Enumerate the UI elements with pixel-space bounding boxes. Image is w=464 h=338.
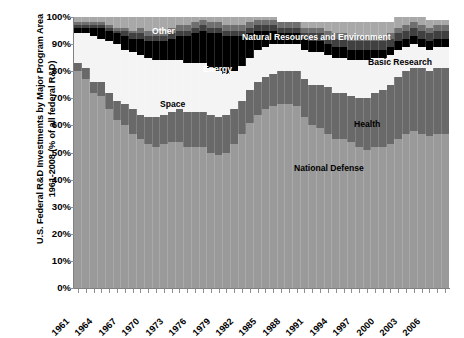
- x-tick-mark: [164, 289, 165, 293]
- x-tick-mark: [148, 289, 149, 293]
- column-separator: [300, 17, 301, 288]
- x-tick-mark: [437, 289, 438, 293]
- x-tick-mark: [109, 289, 110, 293]
- x-tick-mark: [297, 289, 298, 293]
- x-tick-mark: [250, 289, 251, 293]
- column-separator: [183, 17, 184, 288]
- column-separator: [167, 17, 168, 288]
- x-tick-mark: [203, 289, 204, 293]
- x-tick-mark: [328, 289, 329, 293]
- column-separator: [175, 17, 176, 288]
- column-separator: [206, 17, 207, 288]
- x-tick-mark: [117, 289, 118, 293]
- y-tick-mark: [69, 98, 74, 99]
- y-tick-mark: [69, 288, 74, 289]
- column-separator: [370, 17, 371, 288]
- column-separator: [284, 17, 285, 288]
- y-tick-mark: [69, 71, 74, 72]
- column-separator: [402, 17, 403, 288]
- y-tick-mark: [69, 180, 74, 181]
- column-separator: [105, 17, 106, 288]
- x-tick-mark: [414, 289, 415, 293]
- y-tick-label: 80%: [25, 66, 71, 76]
- column-separator: [409, 17, 410, 288]
- column-separator: [214, 17, 215, 288]
- x-tick-mark: [211, 289, 212, 293]
- x-tick-mark: [187, 289, 188, 293]
- y-tick-mark: [69, 153, 74, 154]
- column-separator: [128, 17, 129, 288]
- x-tick-mark: [445, 289, 446, 293]
- x-tick-mark: [179, 289, 180, 293]
- x-tick-label: 1988: [261, 316, 283, 338]
- column-separator: [144, 17, 145, 288]
- x-tick-label: 1979: [190, 316, 212, 338]
- y-tick-label: 60%: [25, 120, 71, 130]
- y-tick-label: 20%: [25, 229, 71, 239]
- column-separator: [347, 17, 348, 288]
- x-tick-mark: [265, 289, 266, 293]
- x-tick-mark: [133, 289, 134, 293]
- x-tick-label: 2006: [401, 316, 423, 338]
- x-tick-mark: [398, 289, 399, 293]
- x-tick-mark: [234, 289, 235, 293]
- x-tick-mark: [422, 289, 423, 293]
- x-tick-label: 1994: [307, 316, 329, 338]
- column-separator: [386, 17, 387, 288]
- column-separator: [89, 17, 90, 288]
- y-tick-mark: [69, 44, 74, 45]
- x-tick-label: 1964: [73, 316, 95, 338]
- x-tick-mark: [367, 289, 368, 293]
- x-tick-mark: [359, 289, 360, 293]
- column-separator: [136, 17, 137, 288]
- y-tick-label: 40%: [25, 175, 71, 185]
- x-tick-mark: [304, 289, 305, 293]
- plot-area: [74, 17, 449, 288]
- column-separator: [253, 17, 254, 288]
- y-tick-mark: [69, 261, 74, 262]
- x-tick-mark: [383, 289, 384, 293]
- x-tick-mark: [94, 289, 95, 293]
- column-separator: [81, 17, 82, 288]
- column-separator: [261, 17, 262, 288]
- column-separator: [152, 17, 153, 288]
- column-separator: [433, 17, 434, 288]
- y-tick-label: 100%: [25, 12, 71, 22]
- column-separator: [425, 17, 426, 288]
- column-separator: [441, 17, 442, 288]
- column-separator: [269, 17, 270, 288]
- x-tick-label: 2000: [354, 316, 376, 338]
- x-tick-mark: [406, 289, 407, 293]
- x-tick-label: 1970: [120, 316, 142, 338]
- column-separator: [331, 17, 332, 288]
- x-tick-mark: [125, 289, 126, 293]
- column-separator: [238, 17, 239, 288]
- x-tick-label: 1991: [284, 316, 306, 338]
- x-tick-mark: [429, 289, 430, 293]
- x-tick-mark: [219, 289, 220, 293]
- column-separator: [394, 17, 395, 288]
- column-separator: [339, 17, 340, 288]
- y-tick-label: 50%: [25, 148, 71, 158]
- y-tick-mark: [69, 125, 74, 126]
- x-tick-mark: [281, 289, 282, 293]
- column-separator: [378, 17, 379, 288]
- x-tick-mark: [375, 289, 376, 293]
- x-tick-label: 2003: [378, 316, 400, 338]
- x-tick-mark: [351, 289, 352, 293]
- y-axis-tick-labels: 100%90%80%70%60%50%40%30%20%10%0%: [23, 0, 71, 333]
- column-separator: [199, 17, 200, 288]
- x-tick-mark: [390, 289, 391, 293]
- x-tick-mark: [242, 289, 243, 293]
- x-tick-mark: [140, 289, 141, 293]
- y-tick-mark: [69, 234, 74, 235]
- x-tick-label: 1976: [167, 316, 189, 338]
- x-tick-label: 1982: [214, 316, 236, 338]
- column-separator: [230, 17, 231, 288]
- x-tick-mark: [86, 289, 87, 293]
- x-tick-label: 1973: [143, 316, 165, 338]
- x-tick-mark: [336, 289, 337, 293]
- column-separator: [417, 17, 418, 288]
- y-tick-label: 90%: [25, 39, 71, 49]
